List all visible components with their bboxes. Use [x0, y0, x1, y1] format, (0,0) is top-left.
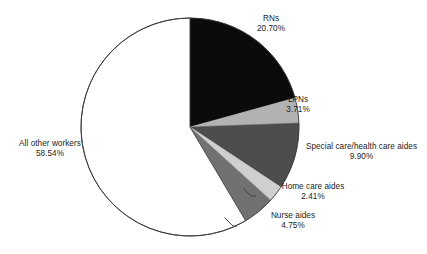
slice-label-rns-name: RNs	[216, 14, 326, 24]
slice-label-lpns-name: LPNs	[243, 95, 353, 105]
slice-label-nurse-aides-value: 4.75%	[238, 221, 348, 231]
slice-label-nurse-aides: Nurse aides 4.75%	[238, 211, 348, 232]
slice-label-home-care-name: Home care aides	[258, 182, 368, 192]
slice-label-rns: RNs 20.70%	[216, 14, 326, 35]
slice-label-rns-value: 20.70%	[216, 24, 326, 34]
pie-chart-canvas	[0, 0, 427, 254]
slice-label-special-care-health-care-aides: Special care/health care aides 9.90%	[296, 142, 427, 163]
slice-label-home-care-value: 2.41%	[258, 192, 368, 202]
slice-label-all-other-workers: All other workers 58.54%	[2, 139, 98, 160]
slice-label-lpns: LPNs 3.71%	[243, 95, 353, 116]
slice-label-lpns-value: 3.71%	[243, 105, 353, 115]
slice-label-home-care-aides: Home care aides 2.41%	[258, 182, 368, 203]
slice-label-nurse-aides-name: Nurse aides	[238, 211, 348, 221]
slice-label-all-other-name: All other workers	[2, 139, 98, 149]
pie-chart: RNs 20.70% LPNs 3.71% Special care/healt…	[0, 0, 427, 254]
pie-slice-group	[81, 18, 299, 236]
slice-label-special-care-value: 9.90%	[296, 152, 427, 162]
slice-label-special-care-name: Special care/health care aides	[296, 142, 427, 152]
slice-label-all-other-value: 58.54%	[2, 149, 98, 159]
